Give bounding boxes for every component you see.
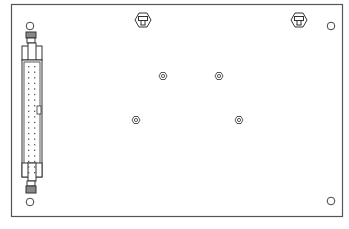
pin-icon xyxy=(34,72,35,73)
pin-icon xyxy=(34,99,35,100)
pin-icon xyxy=(28,66,29,67)
hex-nut-icon xyxy=(235,117,243,124)
hex-nut-icon xyxy=(159,73,167,80)
board-diagram xyxy=(0,0,349,229)
pin-icon xyxy=(34,139,35,140)
standoff-right-icon xyxy=(291,13,307,27)
pin-icon xyxy=(34,116,35,117)
pin-icon xyxy=(28,144,29,145)
pin-icon xyxy=(28,139,29,140)
pin-icon xyxy=(28,122,29,123)
pin-icon xyxy=(28,105,29,106)
mounting-hole-icon xyxy=(26,198,34,206)
pin-icon xyxy=(28,127,29,128)
pin-icon xyxy=(34,111,35,112)
pin-icon xyxy=(34,161,35,162)
pin-icon xyxy=(34,122,35,123)
pin-icon xyxy=(34,127,35,128)
pin-icon xyxy=(28,133,29,134)
pin-icon xyxy=(34,150,35,151)
pin-icon xyxy=(28,99,29,100)
pin-icon xyxy=(34,166,35,167)
pin-icon xyxy=(28,72,29,73)
pin-icon xyxy=(28,150,29,151)
pin-icon xyxy=(28,116,29,117)
pin-icon xyxy=(34,172,35,173)
mounting-hole-icon xyxy=(26,22,34,30)
pin-icon xyxy=(28,161,29,162)
figure-caption xyxy=(150,219,200,227)
pin-icon xyxy=(28,83,29,84)
pin-icon xyxy=(28,94,29,95)
pin-icon xyxy=(34,133,35,134)
pin-icon xyxy=(34,105,35,106)
pin-icon xyxy=(34,88,35,89)
pin-icon xyxy=(28,77,29,78)
pin-icon xyxy=(34,155,35,156)
standoff-left-icon xyxy=(135,13,151,27)
pin-icon xyxy=(28,172,29,173)
board-outline xyxy=(12,5,343,217)
pin-icon xyxy=(28,155,29,156)
pin-icon xyxy=(34,94,35,95)
hex-nut-icon xyxy=(215,73,223,80)
pin-icon xyxy=(28,166,29,167)
pin-icon xyxy=(34,66,35,67)
pin-icon xyxy=(28,111,29,112)
mounting-hole-icon xyxy=(327,197,335,205)
pin-icon xyxy=(34,144,35,145)
mounting-hole-icon xyxy=(327,22,335,30)
pin-icon xyxy=(28,88,29,89)
ribbon-connector xyxy=(22,32,42,193)
hex-nut-icon xyxy=(132,117,140,124)
pin-icon xyxy=(34,77,35,78)
pin-icon xyxy=(34,83,35,84)
